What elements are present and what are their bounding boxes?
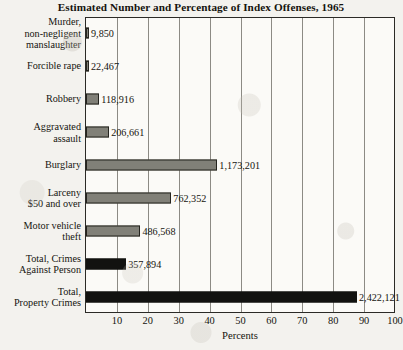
bar xyxy=(86,225,140,236)
x-tick-label: 60 xyxy=(266,315,276,326)
bar-value-label: 22,467 xyxy=(89,61,119,72)
chart-title: Estimated Number and Percentage of Index… xyxy=(0,1,402,13)
x-tick-label: 20 xyxy=(143,315,153,326)
bar-value-label: 9,850 xyxy=(89,28,114,39)
bar-value-label: 1,173,201 xyxy=(217,160,260,171)
bar-value-label: 486,568 xyxy=(140,225,175,236)
category-label: Forcible rape xyxy=(0,61,81,72)
x-axis-title: Percents xyxy=(85,330,395,341)
category-label: Motor vehicle theft xyxy=(0,219,81,242)
x-tick-label: 30 xyxy=(173,315,183,326)
bar xyxy=(86,127,109,138)
category-label: Murder, non-negligent manslaughter xyxy=(0,16,81,50)
bar xyxy=(86,192,171,203)
x-tick-label: 90 xyxy=(359,315,369,326)
bars-layer: 9,85022,467118,916206,6611,173,201762,35… xyxy=(86,17,395,313)
bar-value-label: 118,916 xyxy=(99,94,134,105)
bar-value-label: 206,661 xyxy=(109,127,144,138)
bar-value-label: 357,894 xyxy=(126,258,161,269)
bar xyxy=(86,94,99,105)
category-label: Total, Crimes Against Person xyxy=(0,252,81,275)
bar xyxy=(86,291,357,302)
category-axis-labels: Murder, non-negligent manslaughterForcib… xyxy=(0,17,81,313)
category-label: Total, Property Crimes xyxy=(0,285,81,308)
category-label: Robbery xyxy=(0,94,81,105)
category-label: Burglary xyxy=(0,159,81,170)
category-label: Larceny $50 and over xyxy=(0,186,81,209)
x-tick-label: 80 xyxy=(328,315,338,326)
x-tick-label: 40 xyxy=(204,315,214,326)
x-tick-label: 50 xyxy=(235,315,245,326)
bar-value-label: 762,352 xyxy=(171,192,206,203)
bar xyxy=(86,258,126,269)
x-tick-label: 100 xyxy=(387,315,403,326)
bar-value-label: 2,422,121 xyxy=(357,291,400,302)
x-axis-tick-labels: 102030405060708090100 xyxy=(0,315,402,329)
category-label: Aggravated assault xyxy=(0,121,81,144)
x-tick-label: 70 xyxy=(297,315,307,326)
bar xyxy=(86,160,217,171)
x-tick-label: 10 xyxy=(112,315,122,326)
